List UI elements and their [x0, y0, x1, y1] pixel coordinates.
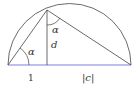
diagram-canvas: α α d 1 |c| [0, 0, 139, 86]
label-one: 1 [28, 73, 34, 83]
label-alpha-upper: α [52, 24, 59, 35]
label-alpha-lower: α [28, 46, 35, 57]
label-d: d [51, 39, 57, 50]
label-c-abs: |c| [82, 72, 94, 84]
semicircle-arc [8, 4, 131, 65]
